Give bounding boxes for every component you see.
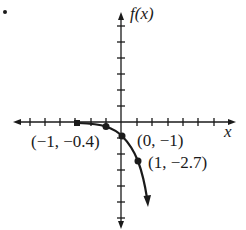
y-axis [117,16,125,224]
y-axis-label: f(x) [130,4,154,23]
x-axis [16,118,232,126]
x-axis-left-arrow-icon [13,119,21,125]
point-label-1: (1, −2.7) [148,153,207,172]
point-1 [135,158,142,165]
x-axis-label: x [223,122,232,141]
curve-end-arrow-icon [144,195,152,207]
y-axis-down-arrow-icon [118,221,124,229]
point-0 [119,133,126,140]
point-label-0: (0, −1) [137,131,183,150]
graph: f(x) x (−1, −0.4) (0, −1) (1, −2.7) [0,0,246,230]
point-neg1 [103,123,110,130]
point-label-neg1: (−1, −0.4) [31,132,100,151]
curve-left-end-marker [74,120,80,126]
bullet-marker [3,10,7,14]
y-axis-up-arrow-icon [118,12,124,20]
